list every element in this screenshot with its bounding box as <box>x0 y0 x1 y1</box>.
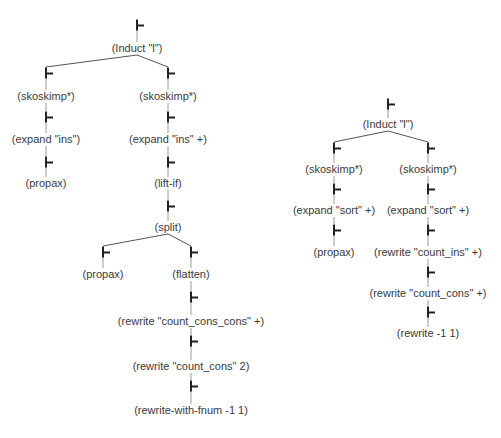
proof-step-label: (Induct "l") <box>363 119 414 130</box>
proof-step-label: (skoskimp*) <box>399 164 456 175</box>
proof-step-label: (Induct "l") <box>112 43 163 54</box>
proof-step-label: (rewrite-with-fnum -1 1) <box>134 405 248 416</box>
turnstile-icon <box>333 143 342 154</box>
turnstile-horizontal <box>427 230 435 232</box>
turnstile-horizontal <box>333 189 341 191</box>
turnstile-horizontal <box>167 73 175 75</box>
turnstile-horizontal <box>190 252 198 254</box>
turnstile-horizontal <box>45 162 53 164</box>
turnstile-icon <box>167 112 176 123</box>
proof-step-label: (expand "ins" +) <box>129 134 207 145</box>
turnstile-icon <box>45 68 54 79</box>
turnstile-icon <box>427 225 436 236</box>
tree-edges <box>0 0 501 438</box>
turnstile-horizontal <box>136 25 144 27</box>
turnstile-horizontal <box>167 162 175 164</box>
tree-edge <box>334 131 388 142</box>
turnstile-horizontal <box>102 252 110 254</box>
proof-step-label: (propax) <box>26 178 67 189</box>
proof-step-label: (propax) <box>314 247 355 258</box>
turnstile-horizontal <box>45 73 53 75</box>
proof-step-label: (split) <box>155 222 182 233</box>
proof-step-label: (skoskimp*) <box>139 91 196 102</box>
turnstile-icon <box>167 68 176 79</box>
turnstile-icon <box>45 157 54 168</box>
turnstile-horizontal <box>427 148 435 150</box>
turnstile-icon <box>427 267 436 278</box>
turnstile-icon <box>427 184 436 195</box>
turnstile-horizontal <box>190 341 198 343</box>
turnstile-horizontal <box>427 312 435 314</box>
proof-step-label: (rewrite "count_cons" +) <box>370 288 487 299</box>
proof-step-label: (lift-if) <box>154 178 182 189</box>
turnstile-horizontal <box>427 272 435 274</box>
proof-step-label: (propax) <box>83 269 124 280</box>
turnstile-icon <box>333 184 342 195</box>
tree-edge <box>168 234 191 246</box>
turnstile-icon <box>167 157 176 168</box>
tree-edge <box>46 55 137 67</box>
proof-step-label: (expand "sort" +) <box>293 205 375 216</box>
turnstile-icon <box>427 143 436 154</box>
proof-step-label: (flatten) <box>172 269 209 280</box>
turnstile-horizontal <box>190 386 198 388</box>
turnstile-icon <box>190 247 199 258</box>
proof-step-label: (skoskimp*) <box>305 164 362 175</box>
turnstile-horizontal <box>45 117 53 119</box>
proof-step-label: (expand "sort" +) <box>387 205 469 216</box>
proof-step-label: (expand "ins") <box>12 134 80 145</box>
proof-step-label: (rewrite "count_cons" 2) <box>133 361 250 372</box>
tree-edge <box>388 131 428 142</box>
proof-step-label: (skoskimp*) <box>17 91 74 102</box>
turnstile-icon <box>190 381 199 392</box>
turnstile-horizontal <box>167 206 175 208</box>
turnstile-horizontal <box>427 189 435 191</box>
proof-step-label: (rewrite "count_ins" +) <box>374 247 482 258</box>
turnstile-icon <box>190 292 199 303</box>
turnstile-icon <box>427 307 436 318</box>
proof-step-label: (rewrite -1 1) <box>397 328 459 339</box>
turnstile-horizontal <box>333 230 341 232</box>
turnstile-icon <box>167 201 176 212</box>
turnstile-horizontal <box>167 117 175 119</box>
turnstile-icon <box>102 247 111 258</box>
turnstile-icon <box>333 225 342 236</box>
turnstile-icon <box>387 99 396 110</box>
proof-tree-canvas: (Induct "l")(skoskimp*)(expand "ins")(pr… <box>0 0 501 438</box>
turnstile-horizontal <box>190 297 198 299</box>
proof-step-label: (rewrite "count_cons_cons" +) <box>118 316 264 327</box>
tree-edge <box>137 55 168 67</box>
turnstile-icon <box>45 112 54 123</box>
turnstile-icon <box>190 336 199 347</box>
turnstile-icon <box>136 20 145 31</box>
turnstile-horizontal <box>333 148 341 150</box>
tree-edge <box>103 234 168 246</box>
turnstile-horizontal <box>387 104 395 106</box>
